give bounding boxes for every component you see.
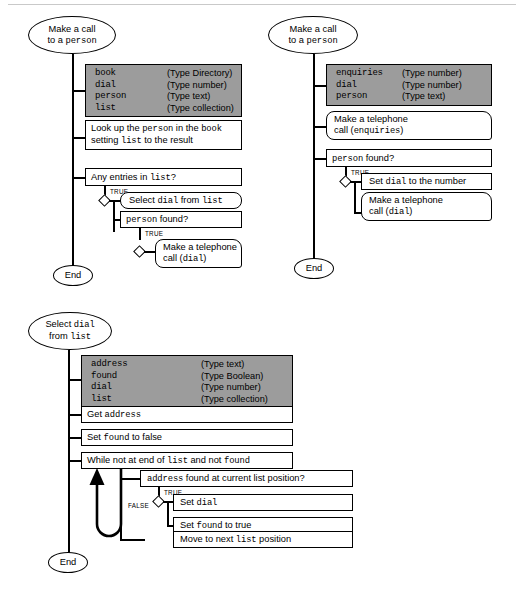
process-set-found-false: Set found to false bbox=[81, 429, 293, 446]
call-line1: Make a telephone bbox=[163, 242, 237, 253]
start-label-line2: to a person bbox=[288, 35, 337, 47]
process-line2: setting list to the result bbox=[91, 135, 237, 147]
start-terminator-bottom: Select dial from list bbox=[28, 312, 112, 350]
connector-inner-condition bbox=[120, 478, 141, 480]
connector-call-enq bbox=[313, 126, 327, 128]
connector-lookup bbox=[72, 137, 86, 139]
declaration-row: dial (Type number) bbox=[95, 80, 237, 92]
connector-set-found-false bbox=[68, 437, 82, 439]
declaration-row: enquiries (Type number) bbox=[336, 68, 487, 80]
branch2-stem bbox=[139, 228, 141, 240]
call-make-telephone-call-dial-r: Make a telephone call (dial) bbox=[361, 192, 492, 221]
connector-move-next bbox=[120, 539, 145, 541]
end-label: End bbox=[306, 263, 323, 274]
declaration-box-bottom: address (Type text) found (Type Boolean)… bbox=[81, 355, 293, 408]
start-terminator-top-left: Make a call to a person bbox=[28, 16, 116, 54]
call-select-dial: Select dial from list bbox=[120, 192, 242, 209]
connector-decl bbox=[72, 90, 86, 92]
condition-person-found: person found? bbox=[120, 211, 242, 228]
connector-decl-b bbox=[68, 379, 82, 381]
spine-top-left bbox=[72, 54, 74, 267]
end-label: End bbox=[65, 270, 82, 281]
declaration-row: person (Type text) bbox=[336, 91, 487, 103]
call-make-telephone-call-enquiries: Make a telephone call (enquiries) bbox=[326, 111, 492, 140]
declaration-row: address (Type text) bbox=[91, 359, 288, 371]
call-line1: Make a telephone bbox=[334, 114, 487, 125]
declaration-row: found (Type Boolean) bbox=[91, 371, 288, 383]
declaration-row: dial (Type number) bbox=[91, 382, 288, 394]
connector-decl-r bbox=[313, 85, 327, 87]
end-terminator-top-right: End bbox=[294, 258, 334, 279]
declaration-box-top-right: enquiries (Type number) dial (Type numbe… bbox=[326, 64, 492, 106]
declaration-row: list (Type collection) bbox=[91, 394, 288, 406]
start-label-line1: Make a call bbox=[48, 24, 95, 35]
connector-condition1 bbox=[72, 177, 86, 179]
connector-get-address bbox=[68, 414, 82, 416]
loop-body-spine bbox=[120, 469, 122, 474]
start-label-line2: to a person bbox=[47, 35, 96, 47]
branch-label-false-b: FALSE bbox=[128, 502, 149, 509]
end-terminator-bottom: End bbox=[48, 552, 88, 573]
start-label-line1: Make a call bbox=[289, 24, 336, 35]
declaration-row: dial (Type number) bbox=[336, 80, 487, 92]
branch-label-true-2: TRUE bbox=[145, 230, 163, 237]
process-set-dial: Set dial bbox=[173, 494, 353, 511]
condition-person-found-r: person found? bbox=[326, 149, 492, 167]
inner-branch-trunk bbox=[167, 501, 169, 527]
declaration-row: person (Type text) bbox=[95, 91, 237, 103]
start-label-line2: from list bbox=[49, 331, 91, 343]
diagram-canvas: Make a call to a person book (Type Direc… bbox=[0, 0, 524, 590]
branch1-trunk bbox=[113, 200, 115, 232]
start-label-line1: Select dial bbox=[45, 319, 94, 331]
page-rule bbox=[8, 4, 516, 5]
start-terminator-top-right: Make a call to a person bbox=[268, 16, 358, 54]
end-label: End bbox=[60, 557, 77, 568]
branch-trunk-r bbox=[354, 181, 356, 214]
process-move-next-position: Move to next list position bbox=[173, 531, 353, 548]
loop-body-trunk bbox=[120, 478, 122, 541]
condition-any-entries: Any entries in list? bbox=[85, 168, 242, 186]
connector-condition-r bbox=[313, 158, 327, 160]
call-line2: call (dial) bbox=[369, 206, 487, 218]
call-make-telephone-call-dial: Make a telephone call (dial) bbox=[155, 239, 242, 268]
declaration-row: list (Type collection) bbox=[95, 103, 237, 115]
condition-address-found: address found at current list position? bbox=[140, 470, 353, 487]
process-set-dial-to-number: Set dial to the number bbox=[361, 173, 492, 190]
process-lookup-person: Look up the person in the book setting l… bbox=[85, 120, 242, 150]
declaration-row: book (Type Directory) bbox=[95, 68, 237, 80]
call-line1: Make a telephone bbox=[369, 195, 487, 206]
call-line2: call (dial) bbox=[163, 253, 237, 265]
declaration-box-top-left: book (Type Directory) dial (Type number)… bbox=[85, 64, 242, 117]
process-line1: Look up the person in the book bbox=[91, 123, 237, 135]
end-terminator-top-left: End bbox=[53, 265, 93, 286]
call-line2: call (enquiries) bbox=[334, 125, 487, 137]
process-get-address: Get address bbox=[81, 406, 293, 423]
connector-while bbox=[68, 460, 82, 462]
